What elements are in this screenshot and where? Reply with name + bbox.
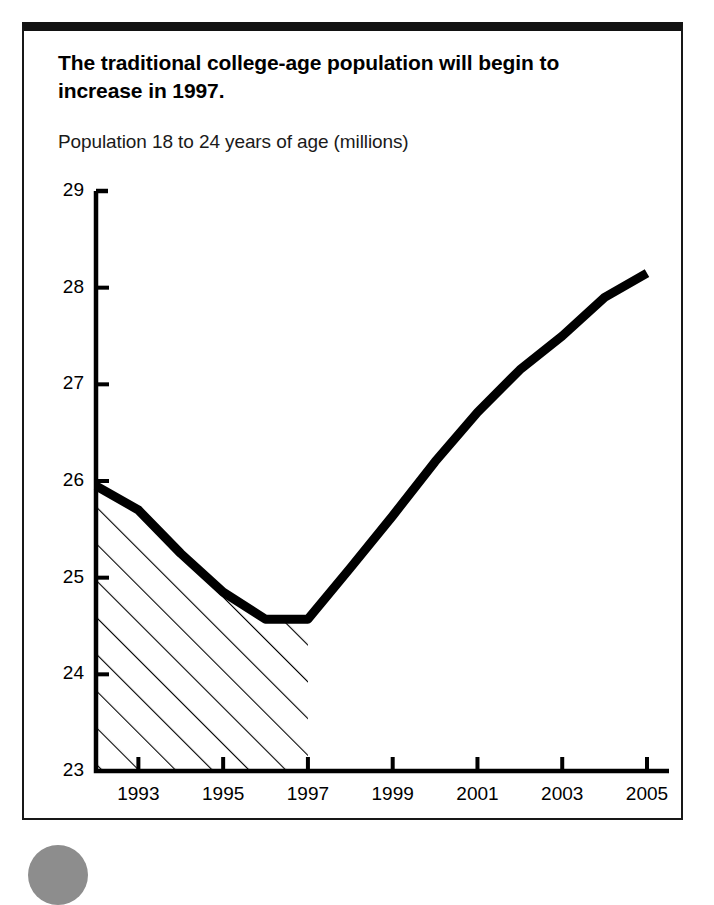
x-axis-tick-label: 1999	[358, 783, 428, 805]
y-axis-tick-label: 26	[44, 469, 84, 491]
y-axis-tick-label: 24	[44, 662, 84, 684]
x-axis-tick-label: 2003	[527, 783, 597, 805]
chart-panel: The traditional college-age population w…	[22, 22, 683, 820]
x-axis-tick-label: 1995	[188, 783, 258, 805]
y-axis-tick-label: 27	[44, 372, 84, 394]
page-marker-dot	[28, 845, 88, 905]
line-chart-svg	[24, 31, 685, 820]
x-axis-tick-label: 1997	[273, 783, 343, 805]
x-axis-tick-label: 2001	[442, 783, 512, 805]
shaded-region	[96, 486, 308, 771]
y-axis-tick-label: 23	[44, 759, 84, 781]
x-axis-tick-label: 1993	[103, 783, 173, 805]
y-axis-tick-label: 25	[44, 566, 84, 588]
y-axis-tick-label: 29	[44, 179, 84, 201]
plot-area: 23242526272829 1993199519971999200120032…	[24, 31, 685, 820]
y-axis-tick-label: 28	[44, 276, 84, 298]
x-axis-tick-label: 2005	[612, 783, 682, 805]
